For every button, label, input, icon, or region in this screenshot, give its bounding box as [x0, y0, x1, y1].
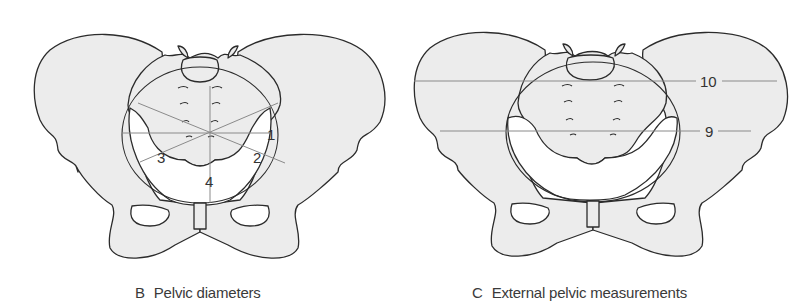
caption-title: Pelvic diameters [154, 284, 261, 301]
panel-b-pelvic-diameters: 1 2 3 4 BPelvic diameters [0, 0, 400, 307]
diameter-label-2: 2 [253, 149, 261, 166]
panel-c-external-measurements: 10 9 CExternal pelvic measurements [400, 0, 811, 307]
measurement-label-10: 10 [700, 73, 717, 90]
diameter-label-4: 4 [205, 173, 213, 190]
caption-b: BPelvic diameters [135, 284, 261, 301]
diameter-label-3: 3 [157, 149, 165, 166]
measurement-label-9: 9 [705, 123, 713, 140]
caption-c: CExternal pelvic measurements [472, 284, 687, 301]
pelvis-illustration-b: 1 2 3 4 [0, 0, 400, 280]
caption-letter: C [472, 284, 483, 301]
caption-title: External pelvic measurements [492, 284, 687, 301]
diameter-label-1: 1 [267, 126, 275, 143]
pelvis-illustration-c: 10 9 [400, 0, 811, 280]
caption-letter: B [135, 284, 145, 301]
